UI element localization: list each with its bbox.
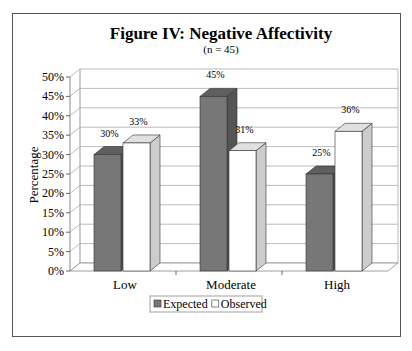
y-tick-label: 25% [42, 167, 64, 181]
bar-observed-low [123, 143, 150, 271]
y-tick-label: 40% [42, 109, 64, 123]
side-gridline [70, 69, 80, 77]
y-tick-label: 10% [42, 225, 64, 239]
y-tick-label: 30% [42, 148, 64, 162]
chart-plot: 0%5%10%15%20%25%30%35%40%45%50%Percentag… [0, 0, 412, 351]
bar-expected-high [306, 174, 333, 271]
side-gridline [70, 88, 80, 96]
y-tick-label: 50% [42, 70, 64, 84]
side-gridline [70, 108, 80, 116]
legend-swatch-observed [212, 300, 219, 307]
y-tick-label: 20% [42, 186, 64, 200]
data-label: 45% [206, 69, 224, 80]
data-label: 31% [235, 124, 253, 135]
y-tick-label: 45% [42, 89, 64, 103]
bar-observed-moderate [229, 151, 256, 271]
data-label: 30% [100, 128, 118, 139]
y-axis-title: Percentage [26, 146, 41, 203]
bar-side-face [256, 143, 266, 271]
side-gridline [70, 185, 80, 193]
y-tick-label: 0% [48, 264, 64, 278]
y-tick-label: 15% [42, 206, 64, 220]
x-tick-label: High [324, 277, 351, 292]
side-gridline [70, 147, 80, 155]
y-tick-label: 5% [48, 245, 64, 259]
side-gridline [70, 244, 80, 252]
side-gridline [70, 127, 80, 135]
bar-expected-low [94, 155, 121, 271]
y-tick-label: 35% [42, 128, 64, 142]
bar-observed-high [335, 131, 362, 271]
side-gridline [70, 166, 80, 174]
bar-side-face [362, 123, 372, 271]
x-tick-label: Moderate [206, 277, 256, 292]
side-gridline [70, 224, 80, 232]
data-label: 36% [341, 104, 359, 115]
legend-label-expected: Expected [163, 297, 208, 311]
side-gridline [70, 205, 80, 213]
bar-expected-moderate [200, 96, 227, 271]
x-tick-label: Low [113, 277, 137, 292]
data-label: 33% [129, 116, 147, 127]
legend-label-observed: Observed [221, 297, 267, 311]
bar-side-face [150, 135, 160, 271]
data-label: 25% [312, 147, 330, 158]
legend-swatch-expected [154, 300, 161, 307]
